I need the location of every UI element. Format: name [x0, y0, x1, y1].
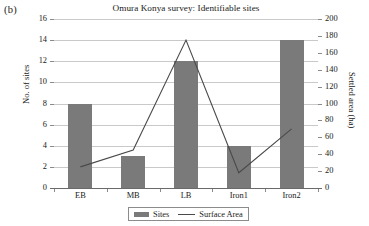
right-tick-label: 80 [325, 116, 333, 124]
x-axis-label-iron1: Iron1 [230, 191, 248, 200]
right-tick-mark [318, 171, 322, 172]
right-tick-mark [318, 154, 322, 155]
right-tick-label: 140 [325, 65, 338, 73]
left-tick-label: 4 [43, 142, 47, 150]
chart-title: Omura Konya survey: Identifiable sites [54, 3, 318, 13]
right-axis-title: Settled area (ha) [347, 72, 357, 128]
surface-area-polyline [80, 40, 291, 173]
plot-area: 0246810121416 02040608010012014016018020… [54, 19, 318, 188]
right-tick-mark [318, 53, 322, 54]
right-tick-mark [318, 87, 322, 88]
legend-label-sites: Sites [153, 210, 169, 219]
right-tick-label: 200 [325, 15, 338, 23]
x-axis-line [50, 188, 322, 189]
legend-entry-sites: Sites [134, 210, 169, 219]
right-tick-label: 100 [325, 99, 338, 107]
right-tick-label: 20 [325, 167, 333, 175]
legend-entry-surface-area: Surface Area [178, 210, 242, 219]
right-tick-mark [318, 70, 322, 71]
left-axis-title: No. of sites [21, 65, 31, 104]
right-tick-mark [318, 137, 322, 138]
legend-line-swatch-icon [178, 214, 195, 215]
right-tick-label: 120 [325, 82, 338, 90]
right-tick-label: 160 [325, 49, 338, 57]
chart-legend: Sites Surface Area [128, 207, 249, 221]
left-tick-label: 2 [43, 163, 47, 171]
right-tick-mark [318, 36, 322, 37]
left-tick-label: 6 [43, 120, 47, 128]
left-tick-label: 12 [39, 57, 47, 65]
legend-bar-swatch-icon [134, 212, 149, 217]
x-axis-label-mb: MB [127, 191, 140, 200]
legend-label-surface-area: Surface Area [199, 210, 242, 219]
right-tick-mark [318, 104, 322, 105]
line-series-surface-area [54, 19, 318, 188]
x-axis-label-iron2: Iron2 [283, 191, 301, 200]
right-tick-mark [318, 120, 322, 121]
left-tick-label: 8 [43, 99, 47, 107]
right-tick-mark [318, 19, 322, 20]
left-tick-label: 16 [39, 15, 47, 23]
right-tick-label: 60 [325, 133, 333, 141]
x-axis-label-lb: LB [181, 191, 192, 200]
right-tick-label: 40 [325, 150, 333, 158]
figure-label: (b) [4, 4, 17, 15]
left-tick-label: 0 [43, 184, 47, 192]
left-tick-label: 10 [39, 78, 47, 86]
x-axis-label-eb: EB [75, 191, 86, 200]
right-tick-label: 0 [325, 184, 329, 192]
right-tick-label: 180 [325, 32, 338, 40]
left-tick-label: 14 [39, 36, 47, 44]
